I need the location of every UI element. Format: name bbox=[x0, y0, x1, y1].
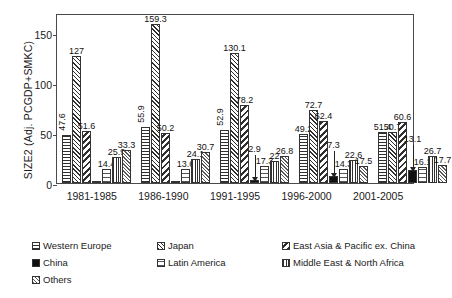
legend-swatch-icon bbox=[32, 259, 40, 267]
bar bbox=[171, 181, 180, 183]
bar: 17.7 bbox=[438, 165, 447, 183]
legend-spacer bbox=[157, 274, 282, 285]
bar: 47.6 bbox=[62, 135, 71, 183]
y-tick-mark bbox=[53, 185, 57, 186]
bar: 72.7 bbox=[309, 110, 318, 183]
bar: 13.6 bbox=[181, 169, 190, 183]
x-tick-label: 1986-1990 bbox=[128, 190, 200, 202]
bar: 2.9 bbox=[250, 180, 259, 183]
bar: 16.1 bbox=[418, 167, 427, 183]
legend-item[interactable]: China bbox=[32, 257, 157, 268]
bar-value-label: 7.3 bbox=[327, 140, 340, 150]
bar bbox=[92, 181, 101, 183]
bar-value-label: 159.3 bbox=[144, 14, 167, 24]
bar-group: 51.450.760.613.116.126.717.7 bbox=[373, 15, 452, 183]
bar-group: 49.272.762.47.314.322.617.5 bbox=[294, 15, 373, 183]
y-tick-label: 150 bbox=[34, 29, 52, 41]
y-tick-label: 100 bbox=[34, 79, 52, 91]
bar: 17.3 bbox=[260, 166, 269, 183]
bar-value-label: 78.2 bbox=[236, 95, 254, 105]
x-axis-labels: 1981-19851986-19901991-19951996-20002001… bbox=[56, 190, 414, 202]
bar-group: 55.9159.350.213.624.130.7 bbox=[136, 15, 215, 183]
legend-item[interactable]: Others bbox=[32, 274, 157, 285]
bar-groups: 47.612751.614.425.933.355.9159.350.213.6… bbox=[57, 15, 413, 183]
bar-value-label: 47.6 bbox=[57, 114, 67, 132]
y-tick-label: 50 bbox=[40, 129, 52, 141]
bar-group: 47.612751.614.425.933.3 bbox=[57, 15, 136, 183]
bar: 14.3 bbox=[339, 169, 348, 183]
bar: 49.2 bbox=[299, 134, 308, 183]
bar: 25.9 bbox=[112, 157, 121, 183]
y-tick-label: 0 bbox=[46, 179, 52, 191]
bar-value-label: 55.9 bbox=[136, 105, 146, 123]
bar: 14.4 bbox=[102, 169, 111, 183]
bar-value-label: 127 bbox=[69, 46, 84, 56]
legend-item[interactable]: Middle East & North Africa bbox=[282, 257, 442, 268]
legend-swatch-icon bbox=[157, 242, 165, 250]
legend-item[interactable]: Latin America bbox=[157, 257, 282, 268]
x-tick-label: 1996-2000 bbox=[271, 190, 343, 202]
legend-label: Middle East & North Africa bbox=[293, 257, 404, 268]
legend-spacer bbox=[282, 274, 442, 285]
bar: 60.6 bbox=[398, 122, 407, 183]
bar: 130.1 bbox=[230, 53, 239, 183]
bar: 30.7 bbox=[201, 152, 210, 183]
bar-value-label: 130.1 bbox=[223, 43, 246, 53]
y-axis-title: SIZE2 (Adj. PCGDP+SMKC) bbox=[22, 20, 34, 200]
bar-value-label: 62.4 bbox=[315, 111, 333, 121]
legend-label: Western Europe bbox=[43, 240, 111, 251]
bar-value-label: 33.3 bbox=[118, 140, 136, 150]
bar: 50.7 bbox=[388, 132, 397, 183]
bar: 62.4 bbox=[319, 121, 328, 183]
legend-label: Latin America bbox=[168, 257, 226, 268]
legend-swatch-icon bbox=[282, 242, 290, 250]
bar-value-label: 17.7 bbox=[434, 155, 452, 165]
legend-label: Japan bbox=[168, 240, 194, 251]
legend-label: Others bbox=[43, 274, 72, 285]
legend-swatch-icon bbox=[32, 276, 40, 284]
bar: 50.2 bbox=[161, 133, 170, 183]
bar-group: 52.9130.178.22.917.32226.8 bbox=[215, 15, 294, 183]
legend-swatch-icon bbox=[157, 259, 165, 267]
bar: 159.3 bbox=[151, 24, 160, 183]
bar-value-label: 17.5 bbox=[355, 156, 373, 166]
bar-value-label: 50.2 bbox=[157, 123, 175, 133]
legend-swatch-icon bbox=[32, 242, 40, 250]
x-tick-label: 1991-1995 bbox=[199, 190, 271, 202]
legend-item[interactable]: Japan bbox=[157, 240, 282, 251]
bar: 127 bbox=[72, 56, 81, 183]
bar: 33.3 bbox=[122, 150, 131, 183]
bar: 51.4 bbox=[378, 132, 387, 183]
bar-value-label: 52.9 bbox=[215, 108, 225, 126]
legend-item[interactable]: Western Europe bbox=[32, 240, 157, 251]
chart-legend: Western EuropeJapanEast Asia & Pacific e… bbox=[32, 240, 422, 285]
bar-value-label: 2.9 bbox=[248, 144, 261, 154]
bar-value-label: 60.6 bbox=[394, 112, 412, 122]
bar: 55.9 bbox=[141, 127, 150, 183]
bar: 7.3 bbox=[329, 176, 338, 183]
bar-value-label: 13.1 bbox=[404, 134, 422, 144]
bar-value-label: 51.6 bbox=[78, 121, 96, 131]
bar: 24.1 bbox=[191, 159, 200, 183]
bar: 26.8 bbox=[280, 156, 289, 183]
legend-item[interactable]: East Asia & Pacific ex. China bbox=[282, 240, 442, 251]
bar: 52.9 bbox=[220, 130, 229, 183]
bar-value-label: 30.7 bbox=[197, 142, 215, 152]
plot-area: 050100150 47.612751.614.425.933.355.9159… bbox=[56, 14, 414, 184]
legend-swatch-icon bbox=[282, 259, 290, 267]
bar: 22 bbox=[270, 161, 279, 183]
bar: 17.5 bbox=[359, 166, 368, 184]
legend-label: East Asia & Pacific ex. China bbox=[293, 240, 415, 251]
bar: 51.6 bbox=[82, 131, 91, 183]
x-tick-label: 1981-1985 bbox=[56, 190, 128, 202]
bar: 13.1 bbox=[408, 170, 417, 183]
bar-value-label: 72.7 bbox=[305, 100, 323, 110]
x-tick-label: 2001-2005 bbox=[342, 190, 414, 202]
legend-label: China bbox=[43, 257, 68, 268]
bar-value-label: 26.8 bbox=[276, 146, 294, 156]
